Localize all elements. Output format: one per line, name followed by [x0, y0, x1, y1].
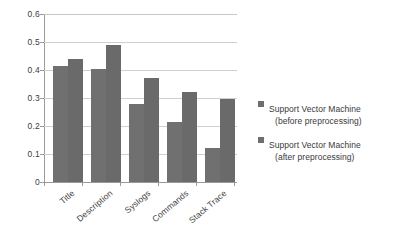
- bar-chart: 0.6 0.5 0.4 0.3 0.2 0.1 0: [0, 0, 407, 246]
- legend-entry-after: Support Vector Machine (after preprocess…: [258, 134, 407, 163]
- bar-before-stack-trace: [205, 148, 220, 182]
- legend-entry-before: Support Vector Machine (before preproces…: [258, 98, 407, 127]
- legend-label-after: Support Vector Machine: [269, 140, 361, 150]
- y-tick-label: 0.6: [4, 10, 40, 19]
- y-tick-label: 0.5: [4, 38, 40, 47]
- y-tick-label: 0.4: [4, 66, 40, 75]
- bar-group-stack-trace: [205, 14, 235, 182]
- x-tick-label-syslogs: Syslogs: [85, 188, 153, 246]
- x-tick-label-commands: Commands: [123, 188, 191, 246]
- chart-legend: Support Vector Machine (before preproces…: [258, 98, 407, 170]
- bar-after-syslogs: [144, 78, 159, 182]
- x-axis-labels: Title Description Syslogs Commands Stack…: [0, 182, 407, 246]
- bar-group-title: [53, 14, 83, 182]
- bar-group-commands: [167, 14, 197, 182]
- bars-layer: [44, 14, 237, 182]
- legend-swatch-icon: [258, 137, 264, 143]
- y-tick-label: 0.2: [4, 122, 40, 131]
- x-tick-label-stack-trace: Stack Trace: [161, 188, 229, 246]
- bar-before-syslogs: [129, 104, 144, 182]
- legend-label-after-line2: (after preprocessing): [269, 152, 407, 163]
- bar-group-syslogs: [129, 14, 159, 182]
- x-tick-label-title: Title: [9, 188, 77, 246]
- y-tick-label: 0.3: [4, 94, 40, 103]
- x-tick-label-description: Description: [47, 188, 115, 246]
- legend-swatch-icon: [258, 101, 264, 107]
- bar-before-title: [53, 66, 68, 182]
- bar-after-commands: [182, 92, 197, 182]
- bar-after-description: [106, 45, 121, 182]
- y-tick-label: 0.1: [4, 150, 40, 159]
- legend-label-before-line2: (before preprocessing): [269, 116, 407, 127]
- bar-before-commands: [167, 122, 182, 182]
- legend-label-before: Support Vector Machine: [269, 104, 361, 114]
- bar-before-description: [91, 69, 106, 182]
- bar-after-title: [68, 59, 83, 182]
- bar-after-stack-trace: [220, 99, 235, 182]
- bar-group-description: [91, 14, 121, 182]
